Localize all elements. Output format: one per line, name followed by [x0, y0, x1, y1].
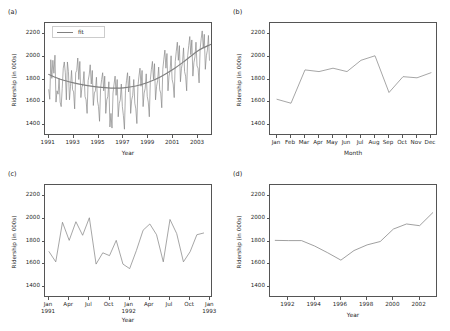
y-tick-label: 2000: [233, 52, 265, 58]
y-tick-label: 2200: [8, 191, 40, 197]
y-tick-mark: [42, 33, 45, 34]
panel-b-plot: [270, 23, 438, 136]
y-tick-mark: [42, 195, 45, 196]
y-tick-mark: [267, 33, 270, 34]
x-tick-mark: [346, 135, 347, 138]
x-tick-mark: [430, 135, 431, 138]
x-tick-mark: [332, 135, 333, 138]
y-tick-mark: [42, 218, 45, 219]
panel-b-xlabel: Month: [269, 150, 437, 156]
x-tick-mark: [360, 135, 361, 138]
panel-b-letter: (b): [233, 8, 242, 16]
x-tick-mark: [392, 297, 393, 300]
panel-d-plot: [270, 185, 438, 298]
x-tick-mark: [73, 135, 74, 138]
x-tick-mark: [402, 135, 403, 138]
panel-d: (d) Ridership (in 000s) 1400160018002000…: [225, 162, 450, 331]
panel-a-letter: (a): [8, 8, 17, 16]
y-tick-label: 1400: [8, 282, 40, 288]
x-tick-mark: [172, 135, 173, 138]
x-tick-mark: [129, 297, 130, 300]
y-tick-label: 1800: [233, 237, 265, 243]
y-tick-mark: [42, 56, 45, 57]
x-tick-mark: [197, 135, 198, 138]
y-tick-mark: [267, 263, 270, 264]
x-tick-mark: [304, 135, 305, 138]
y-tick-label: 2200: [233, 29, 265, 35]
y-tick-label: 1400: [233, 120, 265, 126]
x-tick-mark: [340, 297, 341, 300]
panel-a-legend: fit: [52, 26, 105, 38]
y-tick-mark: [42, 286, 45, 287]
x-tick-mark: [287, 297, 288, 300]
x-tick-label: Dec: [414, 139, 446, 146]
panel-d-letter: (d): [233, 170, 242, 178]
x-tick-mark: [374, 135, 375, 138]
y-tick-mark: [267, 286, 270, 287]
x-tick-mark: [147, 135, 148, 138]
y-tick-label: 1800: [8, 237, 40, 243]
panel-c-plot: [45, 185, 213, 298]
y-tick-label: 2200: [8, 29, 40, 35]
y-tick-label: 2000: [233, 214, 265, 220]
panel-c-xlabel: Year: [44, 317, 212, 323]
y-tick-mark: [42, 263, 45, 264]
x-tick-mark: [318, 135, 319, 138]
y-tick-mark: [267, 56, 270, 57]
x-tick-mark: [290, 135, 291, 138]
panel-a: (a) Ridership (in 000s) fit 140016001800…: [0, 0, 225, 166]
y-tick-mark: [267, 195, 270, 196]
panel-a-plot: [45, 23, 213, 136]
y-tick-label: 1600: [233, 259, 265, 265]
x-tick-mark: [122, 135, 123, 138]
x-tick-mark: [388, 135, 389, 138]
y-tick-mark: [267, 101, 270, 102]
y-tick-label: 1600: [8, 259, 40, 265]
y-tick-label: 1600: [8, 97, 40, 103]
y-tick-mark: [267, 241, 270, 242]
panel-c: (c) Ridership (in 000s) 1400160018002000…: [0, 162, 225, 331]
x-tick-label: 2003: [181, 139, 213, 146]
y-tick-label: 1400: [233, 282, 265, 288]
x-tick-mark: [419, 297, 420, 300]
x-tick-label: 2002: [403, 301, 435, 308]
y-tick-label: 1400: [8, 120, 40, 126]
x-tick-mark: [209, 297, 210, 300]
x-tick-mark: [416, 135, 417, 138]
y-tick-label: 1800: [8, 75, 40, 81]
panel-a-axes: [44, 22, 212, 135]
x-tick-mark: [88, 297, 89, 300]
x-tick-mark: [314, 297, 315, 300]
x-tick-label: Jan1993: [193, 301, 225, 316]
x-tick-mark: [68, 297, 69, 300]
y-tick-mark: [42, 101, 45, 102]
y-tick-mark: [267, 124, 270, 125]
x-tick-mark: [48, 135, 49, 138]
y-tick-mark: [267, 79, 270, 80]
y-tick-mark: [42, 79, 45, 80]
y-tick-mark: [267, 218, 270, 219]
panel-d-xlabel: Year: [269, 312, 437, 318]
panel-c-letter: (c): [8, 170, 17, 178]
y-tick-label: 1800: [233, 75, 265, 81]
legend-label-fit: fit: [78, 29, 84, 35]
y-tick-label: 2000: [8, 214, 40, 220]
x-tick-mark: [276, 135, 277, 138]
x-tick-mark: [149, 297, 150, 300]
panel-a-xlabel: Year: [44, 150, 212, 156]
y-tick-mark: [42, 124, 45, 125]
y-tick-label: 2200: [233, 191, 265, 197]
figure-panel-grid: (a) Ridership (in 000s) fit 140016001800…: [0, 0, 450, 331]
panel-d-axes: [269, 184, 437, 297]
x-tick-mark: [98, 135, 99, 138]
y-tick-label: 2000: [8, 52, 40, 58]
x-tick-mark: [189, 297, 190, 300]
y-tick-label: 1600: [233, 97, 265, 103]
legend-line-sample: [57, 32, 73, 33]
panel-b: (b) Ridership (in 000s) 1400160018002000…: [225, 0, 450, 166]
x-tick-mark: [109, 297, 110, 300]
panel-b-axes: [269, 22, 437, 135]
x-tick-mark: [366, 297, 367, 300]
x-tick-mark: [169, 297, 170, 300]
panel-c-axes: [44, 184, 212, 297]
